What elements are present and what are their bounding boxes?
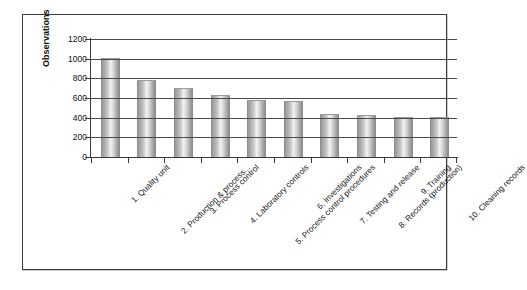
category-label: 10. Cleaning records: [467, 163, 527, 223]
gridline: [91, 78, 457, 79]
y-tick-mark: [85, 157, 90, 158]
y-tick-mark: [85, 118, 90, 119]
chart-frame: Observations 020040060080010001200 1. Qu…: [22, 14, 447, 270]
gridline: [91, 59, 457, 60]
gridline: [91, 39, 457, 40]
y-axis-title: Observations: [41, 9, 51, 67]
gridline: [91, 118, 457, 119]
category-label: 2. Production & process...: [179, 163, 252, 236]
plot-area: [91, 39, 457, 157]
y-tick-mark: [85, 39, 90, 40]
y-tick-mark: [85, 98, 90, 99]
bar: [320, 114, 339, 157]
bar: [101, 58, 120, 157]
gridline: [91, 98, 457, 99]
y-axis-tick-labels: 020040060080010001200: [61, 39, 87, 157]
bar: [247, 100, 266, 157]
gridline: [91, 137, 457, 138]
bar: [211, 95, 230, 157]
y-tick-mark: [85, 78, 90, 79]
y-tick-mark: [85, 137, 90, 138]
bar: [357, 115, 376, 157]
x-axis-category-labels: 1. Quality unit2. Production & process..…: [91, 161, 471, 276]
category-label: 5. Process control procedures: [294, 163, 377, 246]
category-label: 1. Quality unit: [130, 163, 172, 205]
category-label: 3. Process control: [208, 163, 261, 216]
y-tick-mark: [85, 59, 90, 60]
bar: [284, 101, 303, 157]
